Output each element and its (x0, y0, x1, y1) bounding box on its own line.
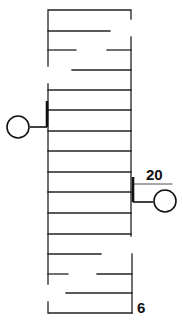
landing-circle-icon (7, 116, 29, 138)
landing-circle-icon (154, 190, 176, 212)
top-frame (48, 10, 131, 66)
stair-diagram: 20 6 (0, 0, 183, 336)
label-top-step: 20 (146, 166, 163, 183)
label-bottom-step: 6 (137, 299, 145, 316)
upper-left-landing (7, 101, 47, 138)
bottom-frame (48, 302, 132, 313)
